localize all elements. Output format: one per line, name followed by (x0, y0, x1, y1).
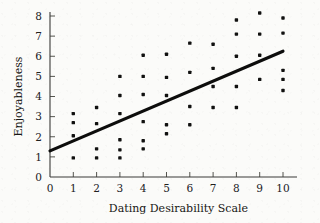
x-axis-tick-label: 0 (47, 182, 54, 194)
data-point (188, 123, 191, 126)
data-point (72, 156, 75, 159)
y-axis-tick-label: 1 (35, 151, 42, 163)
x-axis-tick-label: 3 (117, 182, 124, 194)
data-point (281, 69, 284, 72)
x-axis-tick-label: 5 (163, 182, 170, 194)
plot-canvas: 012345678 012345678910 Dating Desirabili… (0, 0, 320, 223)
data-point (281, 31, 284, 34)
y-axis-tick-label: 7 (35, 30, 42, 42)
data-point (95, 147, 98, 150)
data-point (72, 112, 75, 115)
data-point (165, 123, 168, 126)
data-point (235, 32, 238, 35)
data-point (142, 120, 145, 123)
y-axis-tick-label: 2 (35, 131, 42, 143)
data-point (118, 156, 121, 159)
data-point (281, 89, 284, 92)
data-point (235, 106, 238, 109)
y-axis-tick-label: 8 (35, 10, 42, 22)
data-point (142, 93, 145, 96)
data-point (281, 78, 284, 81)
x-axis-tick-label: 9 (256, 182, 263, 194)
y-axis-title: Enjoyableness (12, 56, 25, 136)
data-point (258, 32, 261, 35)
data-point (72, 134, 75, 137)
x-axis-tick-mark-group (73, 172, 283, 177)
data-point (211, 85, 214, 88)
x-axis-title: Dating Desirability Scale (109, 202, 248, 215)
data-point (258, 11, 261, 14)
data-point (211, 67, 214, 70)
data-point (95, 156, 98, 159)
x-axis-tick-label: 1 (70, 182, 77, 194)
y-axis-tick-label: 3 (35, 110, 42, 122)
x-axis-tick-label: 6 (186, 182, 193, 194)
data-point (165, 94, 168, 97)
y-axis-tick-label-group: 012345678 (35, 10, 42, 183)
data-point (142, 75, 145, 78)
x-axis-tick-label: 7 (210, 182, 217, 194)
x-axis-tick-label: 2 (93, 182, 100, 194)
data-point (281, 16, 284, 19)
data-point (211, 42, 214, 45)
y-axis-tick-label: 4 (35, 90, 42, 102)
x-axis-tick-label: 4 (140, 182, 147, 194)
scatter-plot-figure: 012345678 012345678910 Dating Desirabili… (0, 0, 320, 223)
x-axis-tick-label: 10 (276, 182, 289, 194)
data-point (95, 106, 98, 109)
data-point (235, 55, 238, 58)
data-point (165, 132, 168, 135)
data-point (258, 78, 261, 81)
data-point (188, 105, 191, 108)
data-point (118, 112, 121, 115)
x-axis-tick-label: 8 (233, 182, 240, 194)
data-point (118, 75, 121, 78)
data-point (188, 41, 191, 44)
data-point (235, 85, 238, 88)
data-point (142, 139, 145, 142)
data-point-group (72, 11, 285, 159)
data-point (118, 138, 121, 141)
data-point (188, 71, 191, 74)
data-point (142, 54, 145, 57)
data-point (142, 147, 145, 150)
y-axis-tick-label: 6 (35, 50, 42, 62)
y-axis-tick-mark-group (50, 16, 55, 157)
data-point (165, 76, 168, 79)
data-point (235, 18, 238, 21)
data-point (95, 122, 98, 125)
data-point (118, 148, 121, 151)
x-axis-tick-label-group: 012345678910 (47, 182, 290, 194)
y-axis-tick-label: 0 (35, 171, 42, 183)
data-point (165, 53, 168, 56)
data-point (211, 106, 214, 109)
data-point (72, 121, 75, 124)
y-axis-tick-label: 5 (35, 70, 42, 82)
regression-trend-line (50, 51, 283, 151)
data-point (258, 54, 261, 57)
data-point (118, 94, 121, 97)
